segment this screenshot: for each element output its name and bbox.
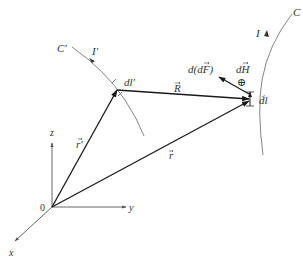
z-axis-label: z — [49, 127, 54, 138]
dH-into-page-symbol: ⊕ — [237, 76, 246, 88]
force-and-field: d(dF) dH ⊕ — [188, 62, 251, 94]
force-label: d(dF) — [188, 63, 213, 76]
x-axis — [15, 207, 52, 241]
source-curve-label: C' — [57, 42, 67, 54]
R-label: R — [173, 82, 181, 94]
biot-savart-diagram: z y x 0 C' I' dl' C I dl r' r R — [0, 0, 303, 271]
x-axis-label: x — [8, 247, 14, 258]
field-curve-label: C — [293, 6, 301, 18]
R-vector — [117, 90, 249, 99]
field-current-label: I — [255, 27, 261, 39]
origin-label: 0 — [40, 202, 45, 213]
y-axis-label: y — [128, 202, 134, 213]
field-element-label: dl — [259, 94, 268, 106]
field-curve: C I dl — [246, 6, 301, 155]
source-current-label: I' — [91, 45, 99, 57]
source-element-label: dl' — [124, 76, 136, 88]
source-element-tick — [112, 79, 116, 83]
r-prime-label: r' — [76, 138, 83, 150]
position-vectors: r' r R — [52, 82, 249, 207]
source-curve: C' I' dl' — [57, 42, 144, 136]
field-current-direction-arrow — [264, 30, 269, 37]
coordinate-axes: z y x 0 — [8, 127, 134, 258]
dH-label: dH — [236, 63, 251, 75]
